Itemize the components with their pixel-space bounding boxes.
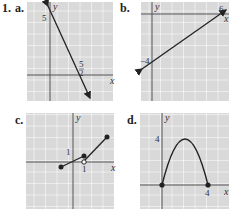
svg-text:4: 4 <box>205 188 210 198</box>
svg-text:1: 1 <box>66 147 71 157</box>
svg-text:−4: −4 <box>140 56 150 66</box>
graph-c: y x 1 1 <box>26 112 116 209</box>
svg-text:1: 1 <box>82 164 87 174</box>
graph-d: y x 4 4 <box>140 112 229 209</box>
svg-text:y: y <box>52 1 58 12</box>
graph-b: y x −4 6 <box>140 1 229 101</box>
svg-text:x: x <box>110 162 116 173</box>
svg-text:5: 5 <box>42 13 47 23</box>
graphs: y x 5 5 2 y x −4 6 y x 1 1 <box>0 0 229 209</box>
svg-text:y: y <box>164 112 170 123</box>
graph-a: y x 5 5 2 <box>27 1 115 101</box>
svg-text:x: x <box>109 75 115 86</box>
svg-text:x: x <box>223 186 229 197</box>
svg-text:2: 2 <box>79 68 84 78</box>
svg-text:x: x <box>223 13 229 24</box>
svg-text:y: y <box>75 112 81 123</box>
svg-text:y: y <box>154 1 160 12</box>
svg-text:6: 6 <box>219 4 224 14</box>
svg-text:4: 4 <box>155 134 160 144</box>
